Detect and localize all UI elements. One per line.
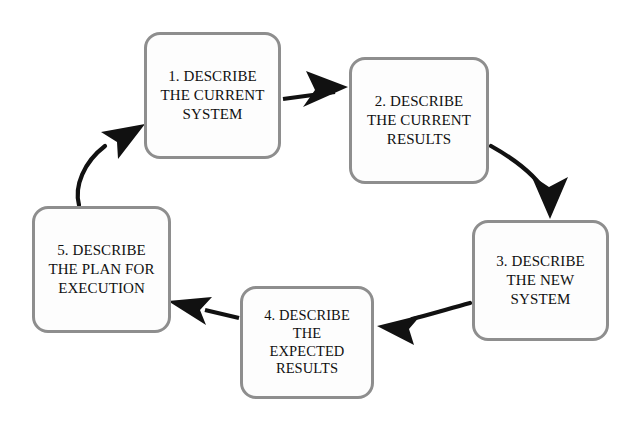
node-label-3: 3. DESCRIBE THE NEW SYSTEM	[490, 252, 591, 310]
node-describe-expected-results[interactable]: 4. DESCRIBE THE EXPECTED RESULTS	[240, 286, 374, 399]
node-label-2: 2. DESCRIBE THE CURRENT RESULTS	[361, 92, 477, 150]
node-label-1: 1. DESCRIBE THE CURRENT SYSTEM	[154, 67, 270, 125]
arrow-1-to-2	[283, 71, 348, 107]
node-describe-current-system[interactable]: 1. DESCRIBE THE CURRENT SYSTEM	[144, 32, 281, 159]
node-label-5: 5. DESCRIBE THE PLAN FOR EXECUTION	[42, 241, 160, 299]
node-label-4: 4. DESCRIBE THE EXPECTED RESULTS	[258, 307, 356, 379]
arrow-5-to-1	[78, 124, 145, 205]
node-describe-new-system[interactable]: 3. DESCRIBE THE NEW SYSTEM	[472, 220, 609, 341]
node-describe-plan-for-execution[interactable]: 5. DESCRIBE THE PLAN FOR EXECUTION	[32, 206, 171, 333]
node-describe-current-results[interactable]: 2. DESCRIBE THE CURRENT RESULTS	[349, 57, 489, 184]
diagram-canvas: 1. DESCRIBE THE CURRENT SYSTEM 2. DESCRI…	[0, 0, 641, 429]
arrow-3-to-4	[377, 303, 470, 345]
arrow-4-to-5	[168, 297, 239, 325]
arrow-2-to-3	[491, 146, 568, 219]
